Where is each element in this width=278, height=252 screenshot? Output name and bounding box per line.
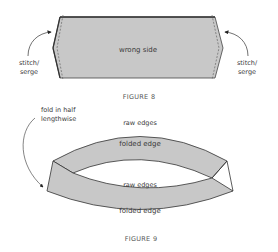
fold-arrow-icon	[23, 118, 43, 187]
sewing-diagram: wrong side stitch/ serge stitch/ serge F…	[0, 0, 278, 252]
left-callout-line2: serge	[20, 68, 38, 76]
figure-8: wrong side stitch/ serge stitch/ serge F…	[19, 15, 258, 101]
top-raw-edges-label: raw edges	[123, 119, 157, 127]
fold-callout-line2: lengthwise	[41, 115, 76, 123]
middle-raw-edges-label: raw edges	[123, 181, 157, 189]
figure-9-caption: FIGURE 9	[125, 235, 158, 243]
right-arrow-icon	[225, 32, 248, 56]
right-callout-line2: serge	[238, 68, 256, 76]
figure-9: raw edges folded edge raw edges folded e…	[23, 106, 233, 243]
bottom-folded-edge-label: folded edge	[119, 207, 161, 215]
figure-8-caption: FIGURE 8	[123, 93, 156, 101]
fold-callout-line1: fold in half	[41, 106, 76, 114]
panel-label: wrong side	[119, 46, 157, 54]
left-callout-line1: stitch/	[19, 59, 40, 67]
left-arrow-icon	[28, 32, 51, 56]
right-callout-line1: stitch/	[237, 59, 258, 67]
top-folded-edge-label: folded edge	[119, 140, 161, 148]
